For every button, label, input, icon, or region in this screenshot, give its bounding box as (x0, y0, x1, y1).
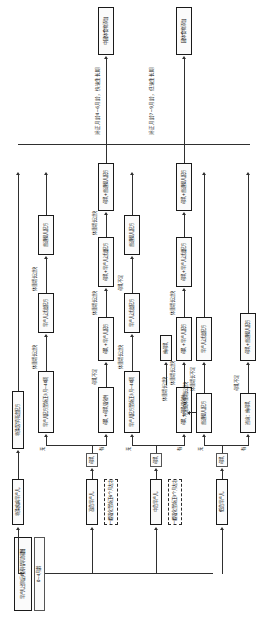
entry-node: 早产儿出院后喂养指导流程图 (14, 537, 32, 611)
low-arrow-2 (246, 362, 250, 365)
high-gate-in (92, 445, 93, 453)
mid-normal-formula-node: 普通婴儿配方 (124, 215, 140, 255)
high-hm-trans-node: 母乳+早产儿过渡配方 (98, 237, 114, 287)
high-ln-3 (106, 365, 107, 387)
edge-entry-special-v (18, 573, 24, 574)
mid-edge-label-1: 体重增长过快 (119, 346, 123, 369)
low-no-out (204, 175, 205, 317)
arrow-high-milk (90, 468, 94, 471)
low-yes-arrow (246, 434, 250, 437)
low-ln-2 (248, 365, 249, 393)
stage-label-1: 矫正月龄4~6月龄，快速生长期 (96, 67, 101, 135)
risk-node-low: 低危早产儿 (216, 479, 228, 525)
mid-hm-trans-node: 母乳+早产儿过渡配方 (176, 237, 192, 287)
collector-join-high (106, 145, 107, 163)
low-feedback-v (190, 412, 196, 413)
high-no-out (46, 175, 47, 215)
stage-ln-1 (106, 59, 107, 145)
stage-arrow-1 (104, 56, 108, 59)
low-label-no: 无 (199, 447, 203, 451)
edge-special-formula (18, 453, 19, 479)
flowchart-canvas: 早产儿出院后喂养指导流程图 0~4月龄 特殊疾病早产儿 高危早产儿 中危早产儿 … (0, 0, 261, 617)
mid-edge-label-4: 体重增长过快 (171, 292, 175, 315)
milk-gate-middle: 母乳 (150, 453, 162, 467)
risk-node-middle: 中危早产儿 (150, 479, 162, 525)
edge-entry-middle (156, 530, 157, 574)
risk-node-high: 高危早产儿 (86, 479, 98, 525)
high-yes-arrow (104, 434, 108, 437)
low-gate-in (222, 445, 223, 453)
note-box-1: 一般强化至矫正6个月左右 (104, 479, 118, 525)
low-no-out-arrow (202, 172, 206, 175)
mid-edge-label-3: 体重增长过快 (171, 362, 175, 385)
risk-node-special: 特殊疾病早产儿 (12, 479, 24, 525)
mid-yes-arrow (182, 434, 186, 437)
mid-arrow-pure (164, 362, 168, 365)
high-arrow-4 (104, 288, 108, 291)
stage-arrow-2 (182, 56, 186, 59)
high-arrow-2 (44, 256, 48, 259)
mid-gate-in (156, 445, 157, 453)
low-feedback-arrow (187, 411, 190, 415)
right-collector (18, 144, 250, 145)
high-pt-formula-node: 早产儿配方至矫正3月~40周 (38, 371, 54, 433)
mid-hm-pt-node: 母乳+早产儿配方 (176, 317, 192, 361)
mid-ln-2 (132, 259, 133, 293)
low-pure-breastmilk-node: 咨询：纯母乳 (240, 393, 256, 433)
mid-no-out-arrow (130, 172, 134, 175)
low-normal-formula-node: 普通婴儿配方 (196, 393, 212, 433)
edge-entry-special (18, 530, 19, 574)
high-label-no: 无 (41, 447, 45, 451)
high-gate-split (46, 445, 106, 446)
low-transition-formula-node: 早产儿过渡配方 (196, 317, 212, 361)
high-no-h (46, 437, 47, 446)
low-gate-split (204, 445, 248, 446)
edge-special-out (18, 175, 19, 391)
stage-label-2: 矫正月龄7~9月龄，低速生长期 (150, 67, 155, 135)
high-ln-4 (106, 291, 107, 317)
high-hmf-node: 母乳+母乳强化剂 (98, 387, 114, 433)
low-hm-normal-node: 母乳+普通婴儿配方 (240, 313, 256, 361)
mid-no-out (132, 175, 133, 215)
edge-middle-milk (156, 471, 157, 479)
mid-pure-breastmilk-node: 纯母乳 (160, 335, 172, 361)
high-no-out-arrow (44, 172, 48, 175)
mid-ln-1 (132, 337, 133, 371)
mid-gate-split (132, 445, 184, 446)
flowchart-frame: 早产儿出院后喂养指导流程图 0~4月龄 特殊疾病早产儿 高危早产儿 中危早产儿 … (0, 0, 261, 617)
output-node-2: 固体食物添加 (176, 7, 192, 55)
entry-sublabel-node: 0~4月龄 (34, 537, 45, 611)
output-node-1: 中固体食物添加 (98, 7, 114, 55)
edge-entry-high (92, 530, 93, 574)
high-label-yes: 有 (100, 447, 104, 451)
low-edge-label-1: 体重增长不足 (191, 368, 195, 391)
low-yes-out-arrow (246, 172, 250, 175)
high-edge-label-5: 体重增长过快 (93, 212, 97, 235)
milk-gate-high: 母乳 (86, 453, 98, 467)
arrow-entry-middle (154, 527, 158, 530)
low-no-h (204, 437, 205, 446)
high-ln-2 (46, 259, 47, 293)
high-edge-label-3: 母乳不足 (93, 369, 97, 385)
low-arrow-1 (202, 362, 206, 365)
mid-yes-h (184, 437, 185, 446)
high-transition-formula-node: 早产儿过渡配方 (38, 293, 54, 333)
mid-transition-formula-node: 早产儿过渡配方 (124, 293, 140, 333)
low-edge-label-2: 母乳不足 (235, 375, 239, 391)
arrow-entry-special (16, 527, 20, 530)
high-edge-label-1: 体重增长过快 (33, 346, 37, 369)
low-yes-h (248, 437, 249, 446)
mid-label-no: 无 (127, 447, 131, 451)
mid-no-h (132, 437, 133, 446)
collector-join-mid (184, 145, 185, 163)
high-arrow-5 (104, 212, 108, 215)
high-normal-formula-node: 普通婴儿配方 (38, 215, 54, 255)
high-no-arrow (44, 434, 48, 437)
arrow-entry-high (90, 527, 94, 530)
mid-ln-4 (184, 291, 185, 317)
arrow-middle-milk (154, 468, 158, 471)
high-arrow-3 (104, 362, 108, 365)
mid-pt-formula-node: 早产儿配方至矫正3月~40周 (124, 371, 140, 433)
milk-gate-low: 母乳 (216, 453, 228, 467)
mid-hm-normal-node: 母乳+普通婴儿配方 (176, 163, 192, 211)
